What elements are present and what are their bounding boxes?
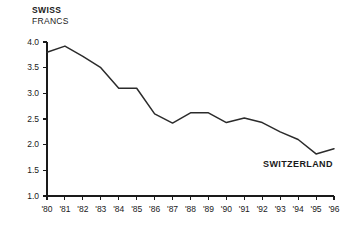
x-tick-label: '94 (293, 204, 304, 214)
y-tick-label: 3.5 (27, 62, 39, 72)
x-tick-label: '82 (77, 204, 88, 214)
x-tick-label: '89 (203, 204, 214, 214)
x-axis-ticks (47, 196, 334, 200)
x-tick-label: '88 (185, 204, 196, 214)
y-axis-group: 4.03.53.02.52.01.51.0 (27, 37, 47, 201)
x-tick-label: '92 (257, 204, 268, 214)
x-tick-label: '91 (239, 204, 250, 214)
x-tick-label: '81 (59, 204, 70, 214)
x-tick-label: '84 (113, 204, 124, 214)
x-axis-tick-labels: '80'81'82'83'84'85'86'87'88'89'90'91'92'… (41, 204, 339, 214)
x-tick-label: '86 (149, 204, 160, 214)
x-tick-label: '87 (167, 204, 178, 214)
y-tick-label: 4.0 (27, 37, 39, 47)
y-tick-label: 1.5 (27, 165, 39, 175)
y-tick-label: 1.0 (27, 191, 39, 201)
y-axis-tick-labels: 4.03.53.02.52.01.51.0 (27, 37, 39, 201)
series-annotation-switzerland: SWITZERLAND (263, 159, 333, 169)
y-tick-label: 2.0 (27, 139, 39, 149)
x-axis-group: '80'81'82'83'84'85'86'87'88'89'90'91'92'… (41, 196, 339, 214)
x-tick-label: '83 (95, 204, 106, 214)
swiss-francs-chart: SWISS FRANCS 4.03.53.02.52.01.51.0 '80'8… (0, 0, 347, 227)
y-tick-label: 3.0 (27, 88, 39, 98)
series-line-switzerland (47, 46, 334, 154)
x-tick-label: '96 (328, 204, 339, 214)
x-tick-label: '85 (131, 204, 142, 214)
x-tick-label: '95 (311, 204, 322, 214)
chart-plot-area: 4.03.53.02.52.01.51.0 '80'81'82'83'84'85… (0, 0, 347, 227)
y-tick-label: 2.5 (27, 114, 39, 124)
x-tick-label: '93 (275, 204, 286, 214)
x-tick-label: '90 (221, 204, 232, 214)
data-series-group (47, 46, 334, 154)
x-tick-label: '80 (41, 204, 52, 214)
